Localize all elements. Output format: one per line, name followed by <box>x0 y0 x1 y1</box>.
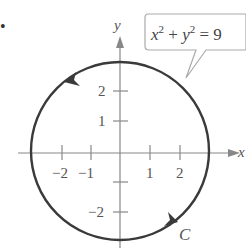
y-tick-label: −2 <box>88 204 104 220</box>
x-tick-label: 1 <box>146 165 154 181</box>
x-tick-label: −2 <box>52 165 68 181</box>
x-tick-label: 2 <box>176 165 184 181</box>
y-axis: y <box>112 17 124 248</box>
bullet: • <box>0 18 6 35</box>
y-tick-label: 2 <box>98 83 106 99</box>
x-axis-label: x <box>237 144 245 160</box>
x-tick-label: −1 <box>78 165 94 181</box>
equation-callout: x2 + y2 = 9 <box>145 14 246 78</box>
x-axis: x <box>18 144 245 160</box>
y-axis-label: y <box>112 17 121 33</box>
y-axis-arrow-icon <box>116 36 124 48</box>
curve-label: C <box>179 225 191 244</box>
y-tick-label: 1 <box>98 113 106 129</box>
circle-diagram: • x y −2 −1 1 2 2 1 −2 C x2 + y2 <box>0 0 246 248</box>
